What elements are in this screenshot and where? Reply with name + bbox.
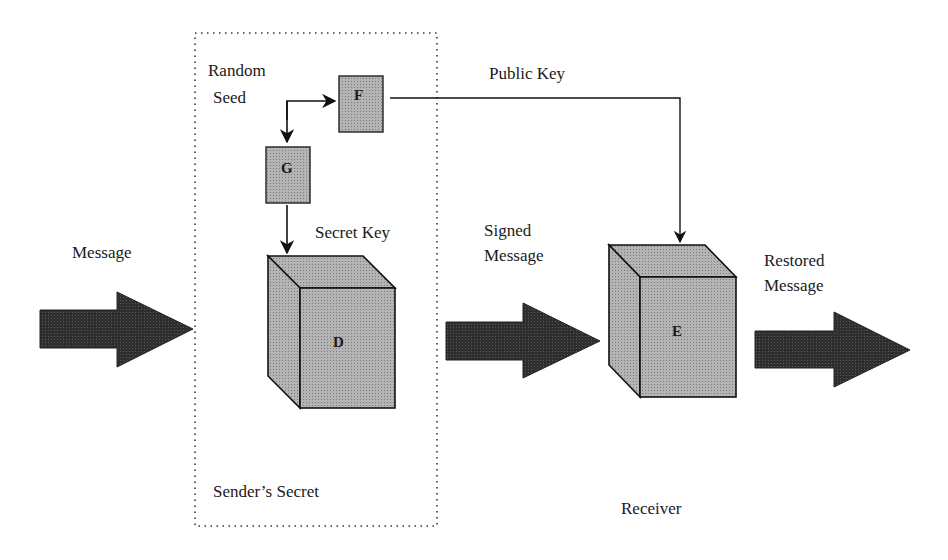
message-input-arrow — [40, 292, 193, 367]
restored-message-label-1: Restored — [764, 250, 824, 272]
public-key-line — [390, 98, 680, 242]
seed-to-f-arrow — [287, 101, 335, 120]
box-g-label: G — [281, 157, 293, 179]
cube-d-label: D — [333, 331, 344, 353]
restored-message-label-2: Message — [764, 275, 823, 297]
receiver-label: Receiver — [621, 498, 681, 520]
message-label: Message — [72, 242, 131, 264]
signed-message-arrow — [446, 303, 600, 378]
secret-key-label: Secret Key — [315, 222, 390, 244]
cube-d — [268, 256, 395, 408]
senders-secret-label: Sender’s Secret — [213, 481, 319, 503]
box-f-label: F — [354, 84, 363, 106]
signed-message-label-2: Message — [484, 245, 543, 267]
cube-e-label: E — [672, 320, 682, 342]
random-seed-label-2: Seed — [213, 87, 246, 109]
restored-message-arrow — [755, 312, 910, 387]
public-key-label: Public Key — [489, 63, 565, 85]
signed-message-label-1: Signed — [484, 220, 531, 242]
random-seed-label-1: Random — [208, 60, 266, 82]
